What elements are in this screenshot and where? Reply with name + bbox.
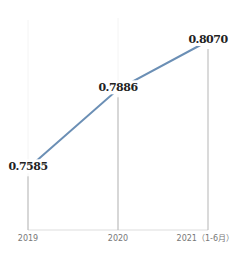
x-tick-label: 2020 bbox=[108, 234, 128, 243]
x-tick-label: 2019 bbox=[18, 234, 38, 243]
x-tick-label: 2021（1-6月） bbox=[177, 234, 234, 243]
value-label: 0.7585 bbox=[8, 160, 47, 173]
value-label: 0.8070 bbox=[188, 33, 228, 46]
line-chart: 0.75850.78860.8070 201920202021（1-6月） bbox=[0, 0, 242, 256]
value-label: 0.7886 bbox=[98, 81, 138, 94]
